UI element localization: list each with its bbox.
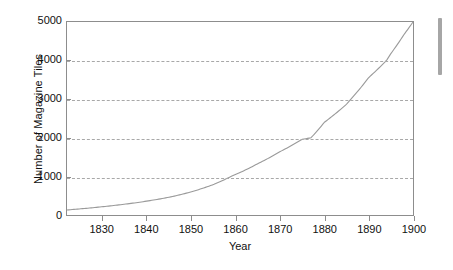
gridline-y-2000 — [67, 139, 413, 140]
gridline-y-3000 — [67, 100, 413, 101]
y-tick-label-4000: 4000 — [4, 54, 62, 65]
plot-area — [66, 21, 414, 216]
x-tick-label-1840: 1840 — [124, 223, 168, 235]
x-tick-label-1850: 1850 — [169, 223, 213, 235]
data-series-line — [67, 22, 413, 215]
gridline-y-1000 — [67, 178, 413, 179]
x-tick-mark-1890 — [369, 216, 370, 221]
x-tick-mark-1880 — [325, 216, 326, 221]
y-tick-mark-2000 — [66, 138, 71, 139]
x-tick-mark-1850 — [191, 216, 192, 221]
y-tick-label-5000: 5000 — [4, 15, 62, 26]
y-tick-label-0: 0 — [4, 210, 62, 221]
x-tick-label-1870: 1870 — [258, 223, 302, 235]
x-axis-title: Year — [66, 240, 414, 252]
x-tick-label-1860: 1860 — [214, 223, 258, 235]
x-tick-mark-1900 — [414, 216, 415, 221]
chart-figure: Number of Magazine Tiles 010002000300040… — [0, 0, 453, 270]
y-tick-mark-3000 — [66, 99, 71, 100]
scroll-indicator-bar[interactable] — [438, 18, 442, 75]
x-tick-mark-1870 — [280, 216, 281, 221]
y-tick-mark-4000 — [66, 60, 71, 61]
x-tick-mark-1860 — [236, 216, 237, 221]
x-tick-mark-1840 — [146, 216, 147, 221]
y-tick-label-2000: 2000 — [4, 132, 62, 143]
gridline-y-4000 — [67, 61, 413, 62]
x-tick-label-1900: 1900 — [392, 223, 436, 235]
y-tick-mark-1000 — [66, 177, 71, 178]
y-axis-tick-labels: 010002000300040005000 — [0, 0, 62, 270]
y-tick-label-3000: 3000 — [4, 93, 62, 104]
y-tick-label-1000: 1000 — [4, 171, 62, 182]
x-tick-mark-1830 — [102, 216, 103, 221]
x-tick-label-1880: 1880 — [303, 223, 347, 235]
x-tick-label-1890: 1890 — [347, 223, 391, 235]
x-tick-label-1830: 1830 — [80, 223, 124, 235]
